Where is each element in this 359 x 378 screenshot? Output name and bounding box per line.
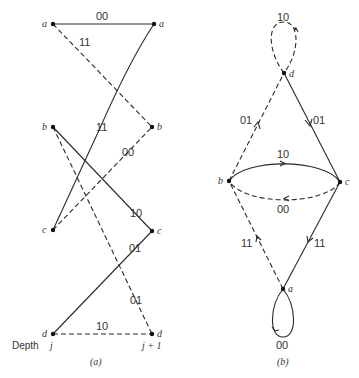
state-edge-d-d [271,22,296,73]
state-edge-label: 00 [276,339,288,351]
state-edge-label: 10 [277,11,289,23]
state-edge-label: 11 [314,237,325,249]
state-edge-label: 11 [241,237,252,249]
trellis-node-label: c [42,224,47,235]
trellis-edge-label: 10 [130,207,142,219]
state-node-label: d [289,68,295,79]
state-edge-b-d [229,73,284,181]
trellis-node-label: a [42,18,47,29]
trellis-edge-label: 01 [130,294,142,306]
state-node-a [281,287,285,291]
trellis-edge-a-b [53,24,152,127]
arrow-icon [256,236,261,242]
trellis-node-a-j [51,22,55,26]
trellis-node-label: b [42,121,47,132]
state-edge-label: 01 [240,114,252,126]
state-edge-a-b [229,181,283,289]
caption-b: (b) [277,356,289,368]
trellis-node-a-j1 [152,22,156,26]
trellis-node-c-j1 [150,229,154,233]
trellis-node-d-j [51,332,55,336]
diagram-canvas: a a b b c c d d 00 11 11 00 10 01 01 10 … [0,0,359,378]
trellis-edge-label: 01 [129,242,141,254]
trellis-node-b-j [51,125,55,129]
trellis-edge-label: 11 [96,121,107,133]
state-node-c [338,180,342,184]
state-edge-a-a [272,289,293,337]
depth-j-plus-1: j + 1 [140,340,162,351]
trellis-node-label: a [159,18,164,29]
depth-label: Depth [12,340,39,351]
state-diagram: d b c a 10 01 01 10 00 11 11 00 (b) [218,11,350,368]
trellis-node-c-j [51,228,55,232]
state-edge-label: 10 [277,148,289,160]
trellis-node-label: b [157,121,162,132]
state-node-d [282,71,286,75]
state-node-label: c [345,176,350,187]
trellis-edge-label: 10 [96,320,108,332]
trellis-node-b-j1 [150,125,154,129]
trellis-node-label: d [157,328,163,339]
state-node-label: b [218,175,223,186]
state-node-b [227,179,231,183]
trellis-edge-label: 11 [79,36,90,48]
depth-j: j [48,340,53,351]
caption-a: (a) [90,356,102,368]
trellis-node-d-j1 [150,332,154,336]
state-edge-label: 01 [313,114,325,126]
state-edge-c-a [283,182,340,289]
state-edge-label: 00 [277,203,289,215]
state-edge-c-b [229,181,340,200]
state-edge-d-c [284,73,340,182]
state-edge-b-c [229,164,340,182]
arrow-icon [272,327,279,331]
state-node-label: a [288,283,293,294]
trellis-edge-label: 00 [96,10,108,22]
trellis-node-label: d [42,328,48,339]
trellis-node-label: c [157,225,162,236]
trellis-diagram: a a b b c c d d 00 11 11 00 10 01 01 10 … [12,10,164,368]
trellis-edge-label: 00 [122,146,134,158]
